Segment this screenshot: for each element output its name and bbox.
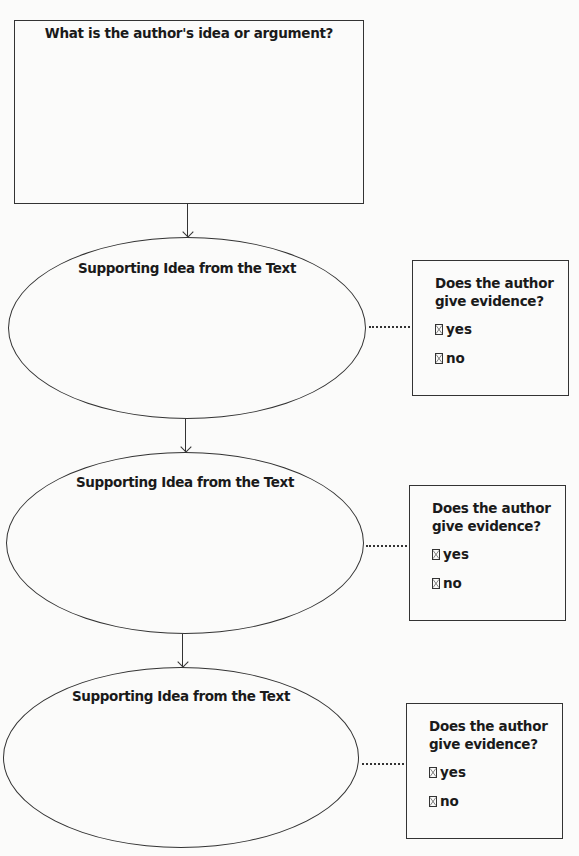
supporting-idea-ellipse-3[interactable]: Supporting Idea from the Text — [3, 667, 359, 848]
option-label: yes — [443, 546, 469, 562]
supporting-idea-ellipse-2[interactable]: Supporting Idea from the Text — [6, 452, 364, 634]
arrow-down-icon — [177, 656, 188, 667]
evidence-box-3: Does the author give evidence? yes no — [406, 703, 563, 839]
checkbox-icon[interactable] — [429, 796, 437, 807]
checkbox-icon[interactable] — [429, 767, 437, 778]
arrow-down-icon — [180, 441, 191, 452]
option-label: no — [440, 793, 459, 809]
evidence-option-no[interactable]: no — [429, 793, 459, 809]
option-label: no — [446, 350, 465, 366]
option-label: yes — [440, 764, 466, 780]
dotted-connector-1 — [369, 326, 410, 328]
arrow-down-icon — [182, 226, 193, 237]
evidence-box-1: Does the author give evidence? yes no — [412, 260, 569, 396]
option-label: yes — [446, 321, 472, 337]
evidence-option-yes[interactable]: yes — [429, 764, 466, 780]
dotted-connector-3 — [362, 763, 404, 765]
evidence-question: Does the author give evidence? — [432, 499, 562, 535]
main-idea-box[interactable]: What is the author's idea or argument? — [14, 20, 364, 204]
supporting-idea-label: Supporting Idea from the Text — [7, 474, 363, 490]
checkbox-icon[interactable] — [435, 353, 443, 364]
evidence-option-no[interactable]: no — [432, 575, 462, 591]
checkbox-icon[interactable] — [435, 324, 443, 335]
supporting-idea-ellipse-1[interactable]: Supporting Idea from the Text — [8, 237, 366, 419]
evidence-option-yes[interactable]: yes — [432, 546, 469, 562]
option-label: no — [443, 575, 462, 591]
main-idea-title: What is the author's idea or argument? — [15, 25, 363, 41]
checkbox-icon[interactable] — [432, 549, 440, 560]
evidence-box-2: Does the author give evidence? yes no — [409, 485, 566, 621]
supporting-idea-label: Supporting Idea from the Text — [4, 688, 358, 704]
evidence-option-no[interactable]: no — [435, 350, 465, 366]
evidence-option-yes[interactable]: yes — [435, 321, 472, 337]
checkbox-icon[interactable] — [432, 578, 440, 589]
evidence-question: Does the author give evidence? — [435, 274, 565, 310]
dotted-connector-2 — [366, 545, 407, 547]
evidence-question: Does the author give evidence? — [429, 717, 559, 753]
supporting-idea-label: Supporting Idea from the Text — [9, 260, 365, 276]
